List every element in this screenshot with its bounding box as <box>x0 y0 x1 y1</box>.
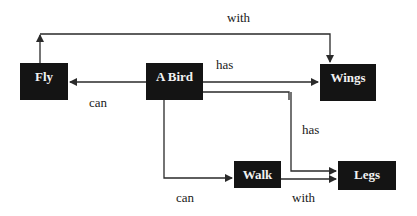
label-can-walk: can <box>176 190 194 206</box>
node-legs: Legs <box>338 161 396 190</box>
node-bird: A Bird <box>146 63 203 100</box>
node-wings-label: Wings <box>330 70 365 86</box>
node-walk: Walk <box>234 161 281 188</box>
node-fly-label: Fly <box>35 69 53 85</box>
node-wings: Wings <box>320 64 376 101</box>
edge-bird-legs-a <box>203 92 289 100</box>
label-has-wings: has <box>216 57 233 73</box>
node-fly: Fly <box>20 63 68 100</box>
label-with-legs: with <box>292 190 315 206</box>
label-has-legs: has <box>302 122 319 138</box>
edge-bird-walk <box>164 100 232 178</box>
bird-concept-diagram: Fly A Bird Wings Walk Legs with has can … <box>0 0 417 216</box>
node-legs-label: Legs <box>354 167 380 183</box>
label-can-fly: can <box>89 95 107 111</box>
edge-fly-wings <box>40 34 330 62</box>
label-with-wings: with <box>227 10 250 26</box>
node-walk-label: Walk <box>243 167 273 183</box>
node-bird-label: A Bird <box>156 69 193 85</box>
